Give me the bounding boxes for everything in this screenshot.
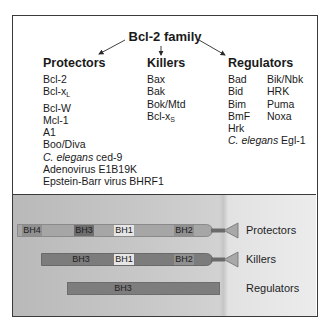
killers-domain-bar: BH3 BH1 BH2 bbox=[41, 253, 213, 266]
regulator-item: Bad bbox=[228, 73, 267, 85]
regulators-row-label: Regulators bbox=[246, 282, 299, 294]
regulators-heading: Regulators bbox=[228, 56, 306, 70]
protector-item: Adenovirus E1B19K bbox=[43, 163, 164, 175]
killer-item: Bak bbox=[147, 85, 186, 97]
protector-item: C. elegans ced-9 bbox=[43, 151, 164, 163]
protector-item: Boo/Diva bbox=[43, 138, 164, 150]
protectors-column: Protectors Bcl-2 Bcl-xL Bcl-W Mcl-1 A1 B… bbox=[43, 56, 164, 188]
bh1-domain: BH1 bbox=[114, 254, 134, 265]
killers-row-label: Killers bbox=[246, 253, 276, 265]
regulators-domain-bar: BH3 bbox=[67, 282, 220, 295]
regulator-item: BmF bbox=[228, 110, 267, 122]
bh3-domain: BH3 bbox=[74, 225, 94, 236]
regulator-item: Noxa bbox=[267, 110, 306, 122]
regulator-item: C. elegans Egl-1 bbox=[228, 134, 306, 146]
protectors-tm-anchor bbox=[211, 222, 241, 239]
killers-tm-anchor bbox=[211, 251, 241, 268]
protectors-heading: Protectors bbox=[43, 56, 164, 70]
regulator-item: Bid bbox=[228, 85, 267, 97]
protector-item: Bcl-xL bbox=[43, 85, 164, 101]
bh4-domain: BH4 bbox=[22, 225, 42, 236]
bh1-domain: BH1 bbox=[114, 225, 134, 236]
killers-heading: Killers bbox=[147, 56, 186, 70]
regulator-item: Puma bbox=[267, 98, 306, 110]
protector-item: Mcl-1 bbox=[43, 114, 164, 126]
bh3-domain: BH3 bbox=[68, 254, 94, 265]
bh2-domain: BH2 bbox=[174, 254, 194, 265]
protector-item: Epstein-Barr virus BHRF1 bbox=[43, 175, 164, 187]
bh2-domain: BH2 bbox=[174, 225, 194, 236]
protector-item: Bcl-2 bbox=[43, 73, 164, 85]
regulator-item: Bik/Nbk bbox=[267, 73, 306, 85]
killer-item: Bax bbox=[147, 73, 186, 85]
arrow-to-protectors bbox=[99, 40, 125, 54]
killers-column: Killers Bax Bak Bok/Mtd Bcl-xS bbox=[147, 56, 186, 126]
killer-item: Bcl-xS bbox=[147, 110, 186, 126]
bcl2-family-figure: Bcl-2 family Protectors Bcl-2 Bcl-xL Bcl… bbox=[12, 15, 318, 317]
domain-structure-panel: BH4 BH3 BH1 BH2 Protectors BH3 BH1 BH2 K… bbox=[13, 194, 316, 316]
protector-item: A1 bbox=[43, 126, 164, 138]
protector-item: Bcl-W bbox=[43, 102, 164, 114]
protectors-row-label: Protectors bbox=[246, 224, 296, 236]
regulator-item: Bim bbox=[228, 98, 267, 110]
bh3-domain: BH3 bbox=[108, 283, 138, 294]
protectors-domain-bar: BH4 BH3 BH1 BH2 bbox=[17, 224, 213, 237]
regulators-column: Regulators Bad Bik/Nbk Bid HRK Bim Puma … bbox=[228, 56, 306, 147]
regulator-item: Hrk bbox=[228, 122, 306, 134]
arrow-to-regulators bbox=[199, 40, 225, 55]
killer-item: Bok/Mtd bbox=[147, 98, 186, 110]
regulator-item: HRK bbox=[267, 85, 306, 97]
